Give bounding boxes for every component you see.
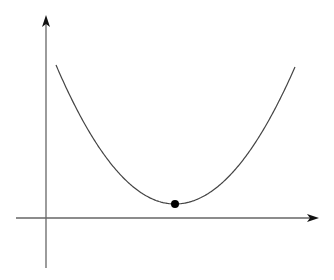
parabola-diagram — [0, 0, 334, 280]
minimum-point — [171, 200, 179, 208]
parabola-curve — [56, 65, 295, 204]
y-axis — [42, 15, 50, 268]
x-axis — [16, 214, 319, 222]
diagram-canvas — [0, 0, 334, 280]
